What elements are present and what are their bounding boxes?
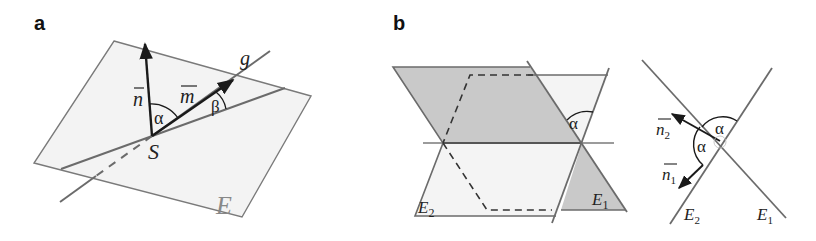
svg-text:n1: n1 [662,165,676,186]
normal-n2-label: n2 [656,119,671,141]
angle-alpha-left-label: α [697,137,706,156]
line-g-lower [60,176,96,202]
figure: a n m α β S g E b [0,0,816,241]
normal-n1-label: n1 [662,164,677,186]
panel-a: a n m α β S g E [34,12,311,220]
plane-e1-side-label: E1 [756,205,773,226]
panel-a-label: a [34,12,46,34]
svg-text:n2: n2 [656,120,670,141]
plane-e-label: E [215,191,232,220]
plane-e2-lower [415,143,582,216]
line-g-label: g [240,47,250,70]
panel-b-side-view: α α n2 n1 E2 E1 [642,60,786,226]
vector-n-label: n [133,88,143,110]
angle-alpha-label-b: α [569,114,578,133]
vector-m-label: m [180,85,194,107]
svg-text:E2: E2 [683,205,700,226]
panel-b-label: b [393,12,405,34]
panel-b: b α E2 E1 [393,12,627,223]
angle-alpha-top-label: α [715,119,724,138]
svg-text:E1: E1 [756,205,773,226]
point-s-label: S [148,139,159,164]
angle-beta-label: β [211,97,220,116]
plane-e2-side-label: E2 [683,205,700,226]
normal-n1 [679,165,703,188]
angle-alpha-label: α [154,108,164,128]
plane-e2-line [670,68,772,224]
